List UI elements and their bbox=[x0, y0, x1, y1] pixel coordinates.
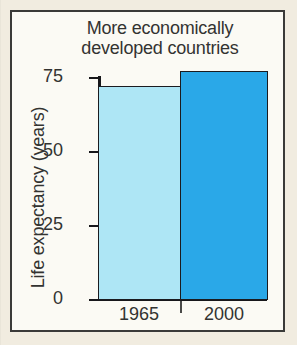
y-tick-mark-75 bbox=[89, 77, 99, 79]
y-axis-label: Life expectancy (years) bbox=[28, 73, 49, 323]
chart-title: More economically developed countries bbox=[38, 18, 282, 58]
chart-plot: More economically developed countries Li… bbox=[12, 12, 287, 334]
y-tick-label-50: 50 bbox=[3, 141, 63, 159]
y-tick-label-25: 25 bbox=[3, 215, 63, 233]
bar-1965[interactable] bbox=[98, 86, 181, 300]
chart-frame: More economically developed countries Li… bbox=[10, 10, 285, 332]
x-tick-label-2000: 2000 bbox=[179, 304, 269, 324]
bar-2000[interactable] bbox=[180, 71, 268, 300]
chart-title-line-1: More economically bbox=[38, 18, 282, 38]
chart-title-line-2: developed countries bbox=[38, 38, 282, 58]
y-tick-label-75: 75 bbox=[3, 67, 63, 85]
y-tick-label-0: 0 bbox=[3, 289, 63, 307]
chart-page: More economically developed countries Li… bbox=[0, 0, 297, 345]
x-tick-label-1965: 1965 bbox=[94, 304, 184, 324]
